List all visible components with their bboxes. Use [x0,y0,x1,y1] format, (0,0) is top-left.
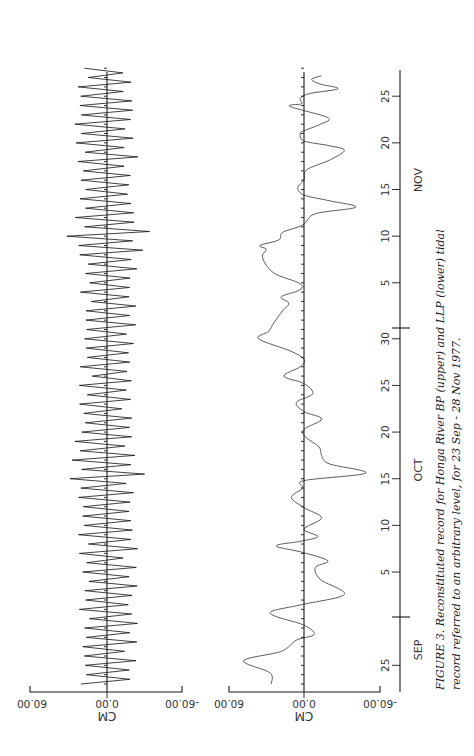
day-tick-label: 25 [379,659,391,672]
day-tick-label: 20 [379,425,391,438]
time-day-ticks: 2551015202530510152025 [379,90,400,673]
figure-caption: FIGURE 3. Reconstituted record for Honga… [434,229,463,691]
month-label-oct: OCT [412,458,425,481]
day-tick-label: 15 [379,183,391,196]
month-label-nov: NOV [412,167,425,192]
day-tick-label: 30 [379,332,391,345]
upper-value-axis [30,686,182,692]
lower-tidal-trace [243,76,366,684]
tidal-record-figure: 60.00 0.00 -60.00 CM 60.00 0.00 -60.00 C… [0,0,474,756]
lower-unit-label: CM [295,709,314,723]
day-tick-label: 10 [379,519,391,532]
day-tick-label: 5 [379,569,391,576]
day-tick-label: 25 [379,379,391,392]
day-tick-label: 15 [379,472,391,485]
upper-panel: 60.00 0.00 -60.00 CM [17,68,199,723]
time-axis: 2551015202530510152025 SEP OCT NOV [379,70,425,692]
upper-tick-label-0: 0.00 [95,698,118,710]
day-tick-label: 25 [379,90,391,103]
upper-tidal-trace [67,68,150,684]
lower-tick-label-neg60: -60.00 [363,698,397,710]
lower-panel: 60.00 0.00 -60.00 CM [214,68,397,723]
lower-tick-label-60: 60.00 [214,698,244,710]
month-label-sep: SEP [412,639,425,660]
upper-unit-label: CM [98,709,117,723]
day-tick-label: 10 [379,229,391,242]
day-tick-label: 5 [379,279,391,286]
caption-line-1: FIGURE 3. Reconstituted record for Honga… [434,229,447,691]
upper-tick-label-60: 60.00 [17,698,47,710]
upper-tick-label-neg60: -60.00 [165,698,199,710]
caption-line-2: record referred to an arbitrary level, f… [450,338,463,690]
day-tick-label: 20 [379,136,391,149]
lower-tick-label-0: 0.00 [292,698,315,710]
